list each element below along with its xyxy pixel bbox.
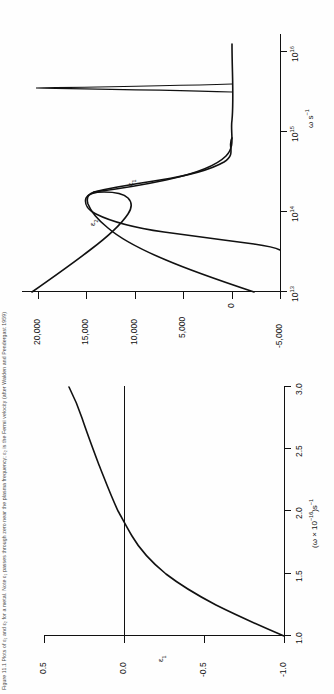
figure-caption: Figure 11.1 Plots of ε₁ and ε₂ for a met… (1, 4, 8, 690)
chart-epsilon-log: 20,000 15,000 10,000 5,000 0 -5,000 1013… (18, 24, 310, 344)
chart-epsilon1-linear: 0.5 0.0 -0.5 -1.0 ε1 1.0 1.5 2.0 2.5 3.0… (38, 376, 310, 676)
plotB-series-epsilon1 (32, 192, 280, 292)
figure-page: Figure 11.1 Plots of ε₁ and ε₂ for a met… (0, 0, 334, 694)
plotA-curve-svg (38, 376, 310, 676)
plotB-series-epsilon2 (87, 138, 254, 292)
plotA-series-epsilon1 (69, 387, 284, 636)
plotB-series-epsilon1-tail (94, 44, 233, 192)
plotB-curve-svg (18, 24, 318, 344)
plotB-spike (36, 84, 232, 92)
plotA-x-axis-title: (ω × 10−16)s−1 (310, 499, 319, 548)
